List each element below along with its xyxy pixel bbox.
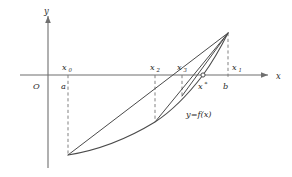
axes-group: [20, 16, 268, 168]
x3-label-base: x: [177, 62, 182, 72]
x1-label-subscript: 1: [239, 67, 242, 73]
x-axis-arrowhead: [261, 72, 268, 78]
y-axis-arrowhead: [45, 16, 51, 23]
x0-label-subscript: 0: [69, 67, 73, 73]
x0-label-base: x: [62, 62, 67, 72]
labels-group: y x O x 0 a x 2 x 3 x * b x 1: [33, 6, 281, 119]
origin-label: O: [33, 81, 40, 91]
x2-label-subscript: 2: [156, 67, 161, 73]
x1-label-base: x: [232, 62, 237, 72]
a-label: a: [61, 81, 66, 91]
chord-x0-x1: [68, 33, 228, 155]
xstar-label-base: x: [198, 81, 203, 91]
x2-label-base: x: [150, 62, 155, 72]
root-point-marker: [201, 73, 205, 77]
x3-label-subscript: 3: [184, 67, 188, 73]
x-axis-label: x: [276, 71, 281, 81]
b-label: b: [223, 81, 228, 91]
chords-group: [68, 33, 228, 155]
figure-container: y x O x 0 a x 2 x 3 x * b x 1: [0, 0, 292, 177]
xstar-label-superscript: *: [205, 81, 208, 87]
secant-method-diagram: y x O x 0 a x 2 x 3 x * b x 1: [0, 0, 292, 177]
y-axis-label: y: [43, 6, 49, 16]
function-equation-label: y=f(x): [185, 109, 212, 119]
